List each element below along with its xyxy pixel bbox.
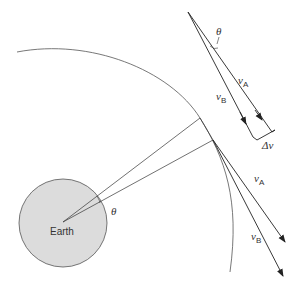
vector-vB-bottom: [213, 140, 283, 276]
vA-label-top: vA: [238, 74, 249, 89]
arrow-vA-top: [255, 110, 262, 120]
arrow-vB-top: [240, 112, 246, 124]
theta-leader: [217, 37, 219, 44]
earth-circle: [19, 179, 107, 267]
vB-label-top: vB: [216, 90, 226, 105]
vector-vA-bottom: [213, 140, 285, 242]
theta-label-top: θ: [216, 25, 222, 37]
tangent-junction: [200, 118, 213, 140]
theta-label-center: θ: [111, 205, 117, 217]
earth-label: Earth: [50, 226, 74, 237]
radius-line-1: [63, 118, 200, 222]
angle-arc-top: [210, 46, 218, 49]
vector-vA-top: [188, 12, 272, 132]
vA-label-bottom: vA: [254, 172, 265, 187]
radius-line-2: [63, 140, 213, 222]
vB-label-bottom: vB: [251, 230, 261, 245]
orbital-diagram: Earth θ Δv θ vA vB vA vB: [0, 0, 303, 290]
delta-v-label: Δv: [261, 139, 273, 151]
